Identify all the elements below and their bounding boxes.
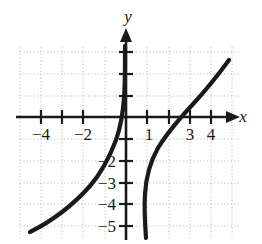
y-tick-label-neg4: −4 [98,195,117,214]
x-tick-label-4: 4 [207,125,216,144]
x-tick-label-neg4: −4 [32,125,51,144]
y-tick-label-neg5: −5 [98,217,116,236]
x-axis [16,111,240,123]
curve-right-branch [145,60,229,238]
x-tick-label-1: 1 [145,125,154,144]
x-tick-label-neg2: −2 [74,125,92,144]
y-tick-label-neg3: −3 [98,174,116,193]
x-axis-label: x [238,107,247,126]
x-tick-label-3: 3 [186,125,195,144]
y-axis-label: y [122,7,132,26]
coordinate-plane: −4 −2 1 3 4 −2 −3 −4 −5 x y [0,0,262,244]
graph-figure: −4 −2 1 3 4 −2 −3 −4 −5 x y [0,0,262,244]
y-tick-label-neg2: −2 [98,152,116,171]
